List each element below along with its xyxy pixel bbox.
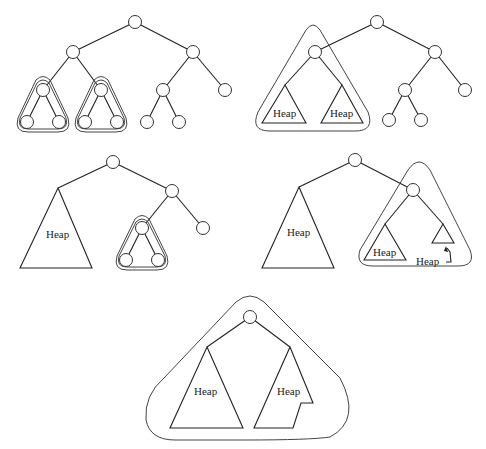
node-circle <box>383 114 396 127</box>
panel-stage-1 <box>17 16 231 133</box>
node-circle <box>197 222 210 235</box>
panel-stage-2: Heap Heap <box>256 16 472 132</box>
heap-label: Heap <box>194 385 218 397</box>
node-circle <box>120 254 133 267</box>
node-circle <box>157 84 170 97</box>
node-circle <box>152 254 165 267</box>
node-circle <box>407 184 420 197</box>
node-circle <box>67 46 80 59</box>
node-circle <box>187 46 200 59</box>
node-circle <box>129 16 142 29</box>
heap-triangle-small <box>432 224 454 243</box>
panel-stage-4: Heap Heap Heap <box>262 154 472 269</box>
node-circle <box>95 84 108 97</box>
heap-construction-diagram: Heap Heap Heap <box>0 0 486 449</box>
node-circle <box>107 156 120 169</box>
node-circle <box>415 114 428 127</box>
tree-edges <box>27 22 225 122</box>
node-circle <box>244 311 257 324</box>
node-circle <box>37 84 50 97</box>
panel-stage-5: Heap Heap <box>146 296 349 440</box>
node-circle <box>459 84 472 97</box>
node-circle <box>21 116 34 129</box>
node-circle <box>136 222 149 235</box>
heap-label: Heap <box>273 107 297 119</box>
node-circle <box>173 116 186 129</box>
node-circle <box>53 116 66 129</box>
heap-label: Heap <box>277 385 301 397</box>
panel-stage-3: Heap <box>20 156 210 271</box>
node-circle <box>349 154 362 167</box>
node-circle <box>219 84 232 97</box>
heap-callout-label: Heap <box>416 255 440 267</box>
node-circle <box>429 46 442 59</box>
heap-label: Heap <box>373 246 397 258</box>
node-circle <box>166 185 179 198</box>
node-circle <box>111 116 124 129</box>
node-circle <box>141 116 154 129</box>
tree-nodes <box>21 16 232 129</box>
heap-label: Heap <box>46 228 70 240</box>
heap-label: Heap <box>330 107 354 119</box>
node-circle <box>309 46 322 59</box>
heap-label: Heap <box>287 226 311 238</box>
node-circle <box>399 84 412 97</box>
node-circle <box>79 116 92 129</box>
node-circle <box>371 16 384 29</box>
